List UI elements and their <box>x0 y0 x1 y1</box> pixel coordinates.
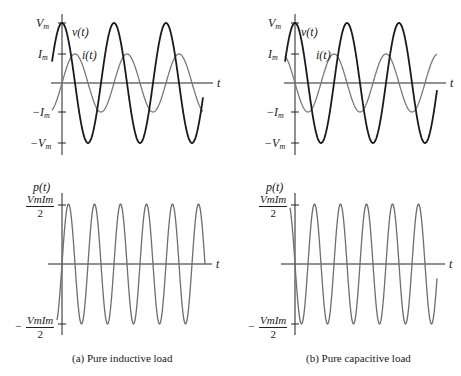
label-v-a: v(t) <box>72 26 89 38</box>
label-p-a: p(t) <box>33 181 50 193</box>
waveform-plots <box>0 0 461 376</box>
label-pmin-b: − VmIm2 <box>259 315 287 340</box>
caption-a: (a) Pure inductive load <box>72 352 173 364</box>
label-t-b-top: t <box>450 77 453 89</box>
label-im-a: Im <box>38 48 48 64</box>
label-pmax-b: VmIm2 <box>259 194 287 219</box>
label-t-a-bottom: t <box>216 258 219 270</box>
label-v-b: v(t) <box>301 26 318 38</box>
label-t-b-bottom: t <box>449 258 452 270</box>
label-t-a-top: t <box>217 77 220 89</box>
label-i-a: i(t) <box>82 49 97 61</box>
label-i-b: i(t) <box>316 49 331 61</box>
label-vm-b: Vm <box>268 17 281 33</box>
label-pmin-a: − VmIm2 <box>26 315 54 340</box>
label-vm-a: Vm <box>36 17 49 33</box>
label-neg-im-b: −Im <box>266 106 284 122</box>
label-neg-vm-b: −Vm <box>264 137 285 153</box>
label-p-b: p(t) <box>266 181 283 193</box>
label-im-b: Im <box>268 48 278 64</box>
label-neg-im-a: −Im <box>32 106 50 122</box>
caption-b: (b) Pure capacitive load <box>306 352 411 364</box>
label-pmax-a: VmIm2 <box>26 194 54 219</box>
label-neg-vm-a: −Vm <box>30 137 51 153</box>
